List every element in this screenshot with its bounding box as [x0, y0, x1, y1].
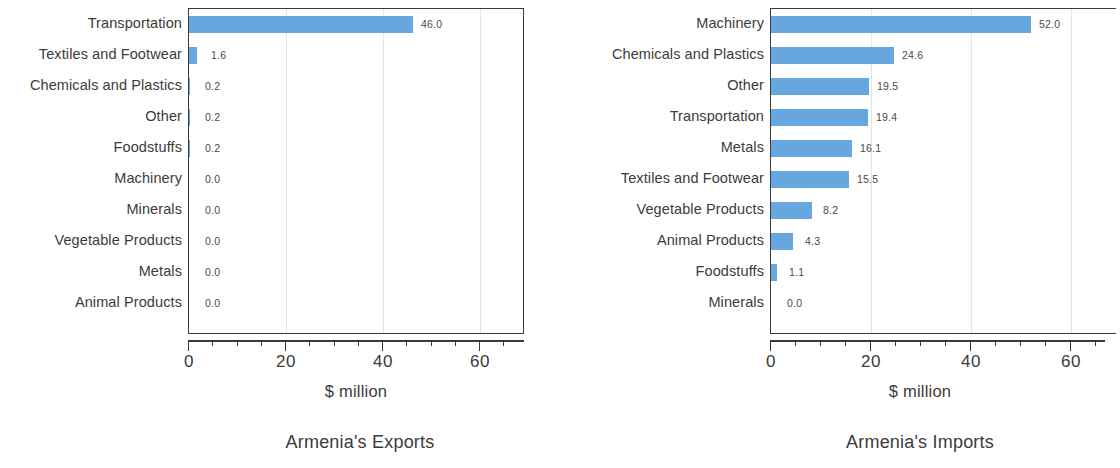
imports-xtick-label: 20	[861, 352, 881, 372]
exports-category-label: Animal Products	[75, 287, 182, 318]
exports-bar-row: 0.2	[189, 71, 523, 102]
imports-xtick-minor	[1045, 340, 1046, 346]
imports-category-label: Metals	[721, 132, 764, 163]
exports-bar-row: 0.0	[189, 195, 523, 226]
exports-bar-value: 0.0	[205, 234, 220, 248]
imports-bar-value: 0.0	[787, 296, 802, 310]
imports-bar-value: 52.0	[1039, 17, 1060, 31]
imports-bar	[771, 140, 852, 157]
exports-plot-area: 46.0 1.6 0.2 0.2 0.2 0.0	[188, 8, 524, 334]
imports-bar	[771, 202, 812, 219]
exports-bar-row: 0.0	[189, 164, 523, 195]
exports-xtick-minor	[503, 340, 504, 346]
imports-bar-row: 52.0	[771, 9, 1116, 40]
imports-bar-value: 8.2	[823, 203, 838, 217]
exports-xtick-0	[188, 340, 189, 351]
exports-xtick-20	[285, 340, 286, 351]
imports-xtick-minor	[995, 340, 996, 346]
exports-bar-value: 0.2	[205, 79, 220, 93]
imports-bar	[771, 109, 868, 126]
exports-bar-row: 0.0	[189, 288, 523, 319]
imports-xtick-minor	[1020, 340, 1021, 346]
exports-xtick-minor	[309, 340, 310, 346]
imports-category-label: Transportation	[670, 101, 764, 132]
imports-xtick-minor	[920, 340, 921, 346]
imports-xtick-label: 0	[766, 352, 776, 372]
imports-xtick-40	[970, 340, 971, 351]
exports-bar-row: 0.0	[189, 257, 523, 288]
exports-bar-value: 0.0	[205, 296, 220, 310]
exports-bar	[189, 109, 190, 126]
imports-plot-area: 52.0 24.6 19.5 19.4 16.1 15.5	[770, 8, 1116, 334]
exports-bar-row: 1.6	[189, 40, 523, 71]
imports-xtick-label: 60	[1061, 352, 1081, 372]
imports-bar-row: 15.5	[771, 164, 1116, 195]
exports-bar	[189, 16, 413, 33]
imports-chart-caption: Armenia's Imports	[710, 432, 1120, 453]
exports-chart-caption: Armenia's Exports	[120, 432, 600, 453]
imports-xtick-minor	[1095, 340, 1096, 346]
exports-category-label: Chemicals and Plastics	[30, 70, 182, 101]
imports-bar-value: 15.5	[857, 172, 878, 186]
exports-category-label: Minerals	[126, 194, 182, 225]
exports-bar-value: 1.6	[211, 48, 226, 62]
imports-bar-row: 4.3	[771, 226, 1116, 257]
exports-xtick-40	[382, 340, 383, 351]
exports-x-axis-line	[188, 340, 524, 342]
exports-bar-rows: 46.0 1.6 0.2 0.2 0.2 0.0	[189, 9, 523, 333]
imports-bar-row: 8.2	[771, 195, 1116, 226]
exports-category-label: Foodstuffs	[114, 132, 182, 163]
imports-bar-row: 1.1	[771, 257, 1116, 288]
imports-bar	[771, 16, 1031, 33]
imports-xtick-minor	[845, 340, 846, 346]
exports-bar-value: 0.0	[205, 172, 220, 186]
imports-xtick-label: 40	[961, 352, 981, 372]
exports-bar-row: 0.0	[189, 226, 523, 257]
exports-bar-row: 0.2	[189, 133, 523, 164]
exports-xtick-minor	[358, 340, 359, 346]
imports-category-label: Textiles and Footwear	[621, 163, 764, 194]
imports-category-label: Chemicals and Plastics	[612, 39, 764, 70]
exports-xtick-minor	[237, 340, 238, 346]
exports-xtick-60	[479, 340, 480, 351]
imports-bar-value: 4.3	[805, 234, 820, 248]
exports-category-label: Textiles and Footwear	[39, 39, 182, 70]
imports-bar-value: 1.1	[789, 265, 804, 279]
imports-bar	[771, 171, 849, 188]
imports-category-label: Minerals	[708, 287, 764, 318]
exports-bar-value: 0.2	[205, 110, 220, 124]
exports-bar	[189, 78, 190, 95]
exports-xtick-label: 60	[470, 352, 490, 372]
imports-category-label: Animal Products	[657, 225, 764, 256]
imports-bar-row: 0.0	[771, 288, 1116, 319]
exports-bar-value: 0.0	[205, 203, 220, 217]
exports-bar-row: 0.2	[189, 102, 523, 133]
imports-bar-rows: 52.0 24.6 19.5 19.4 16.1 15.5	[771, 9, 1116, 333]
exports-bar-value: 46.0	[421, 17, 442, 31]
imports-bar-value: 19.5	[877, 79, 898, 93]
imports-xtick-60	[1070, 340, 1071, 351]
imports-category-label: Foodstuffs	[696, 256, 764, 287]
imports-x-axis-title: $ million	[770, 382, 1070, 401]
exports-category-label: Vegetable Products	[54, 225, 182, 256]
exports-xtick-minor	[334, 340, 335, 346]
imports-xtick-minor	[795, 340, 796, 346]
imports-xtick-0	[770, 340, 771, 351]
imports-xtick-minor	[945, 340, 946, 346]
exports-xtick-minor	[261, 340, 262, 346]
exports-xtick-minor	[455, 340, 456, 346]
exports-xtick-minor	[212, 340, 213, 346]
exports-xtick-label: 20	[276, 352, 296, 372]
exports-bar-row: 46.0	[189, 9, 523, 40]
imports-bar-row: 19.5	[771, 71, 1116, 102]
exports-xtick-label: 0	[184, 352, 194, 372]
imports-bar	[771, 233, 793, 250]
imports-chart-figure: Machinery Chemicals and Plastics Other T…	[545, 0, 1105, 468]
imports-category-label: Vegetable Products	[636, 194, 764, 225]
exports-category-label: Machinery	[114, 163, 182, 194]
imports-bar-value: 24.6	[902, 48, 923, 62]
imports-bar-value: 19.4	[876, 110, 897, 124]
exports-x-axis-title: $ million	[188, 382, 524, 401]
exports-category-label: Transportation	[88, 8, 182, 39]
exports-xtick-label: 40	[373, 352, 393, 372]
